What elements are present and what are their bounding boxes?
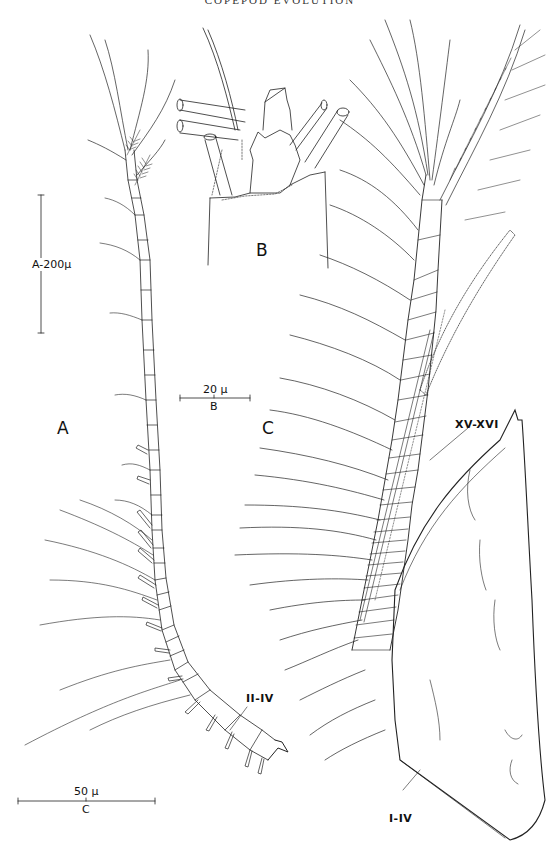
scale-bar-c-sub: C <box>82 803 90 816</box>
panel-label-c: C <box>262 418 274 438</box>
panel-b-drawing <box>177 28 349 268</box>
panel-a-drawing <box>25 35 288 774</box>
panel-label-b: B <box>256 240 268 260</box>
scale-bar-b-text: 20 μ <box>203 383 228 396</box>
segment-label-ii-iv: II-IV <box>246 692 274 705</box>
scale-bar-b-sub: B <box>210 400 218 413</box>
scale-bar-a-text: A-200μ <box>32 258 71 271</box>
segment-label-i-iv: I-IV <box>389 812 412 825</box>
panel-label-a: A <box>57 418 69 438</box>
scale-bar-c-text: 50 μ <box>74 785 99 798</box>
segment-label-xv-xvi: XV-XVI <box>455 418 499 431</box>
label-leaders <box>230 428 468 790</box>
